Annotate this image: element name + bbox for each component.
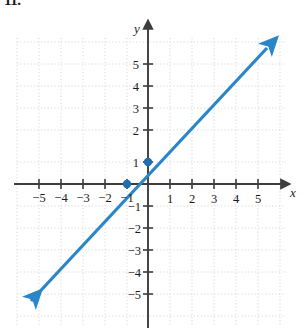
x-tick-label-1: 1 <box>167 192 173 206</box>
graph-figure: 11. <box>0 0 307 333</box>
y-tick-label-2: 2 <box>133 124 139 138</box>
x-tick-label-neg4: −4 <box>54 191 68 205</box>
y-tick-label-5: 5 <box>133 58 139 72</box>
y-tick-label-neg4: −4 <box>128 266 142 280</box>
x-tick-label-neg2: −2 <box>98 191 111 205</box>
x-tick-label-4: 4 <box>233 192 240 206</box>
plotted-point-y-intercept <box>144 158 152 166</box>
x-tick-label-neg5: −5 <box>32 191 45 205</box>
y-tick-label-neg2: −2 <box>128 222 141 236</box>
y-tick-label-neg3: −3 <box>128 244 141 258</box>
y-tick-label-4: 4 <box>133 80 140 94</box>
y-tick-label-neg5: −5 <box>128 288 141 302</box>
x-tick-label-neg3: −3 <box>76 191 89 205</box>
x-tick-label-5: 5 <box>255 192 261 206</box>
y-axis-label: y <box>132 21 140 36</box>
y-tick-label-neg1: −1 <box>128 200 141 214</box>
x-axis-label: x <box>289 185 296 200</box>
x-tick-label-2: 2 <box>189 192 195 206</box>
plotted-point-x-intercept <box>123 180 131 188</box>
coordinate-plane-graph: −5 −4 −3 −2 −1 1 2 3 4 5 5 4 3 2 1 −1 −2… <box>0 0 307 333</box>
x-tick-label-3: 3 <box>211 192 217 206</box>
y-tick-label-3: 3 <box>133 102 139 116</box>
y-tick-label-1: 1 <box>133 156 139 170</box>
